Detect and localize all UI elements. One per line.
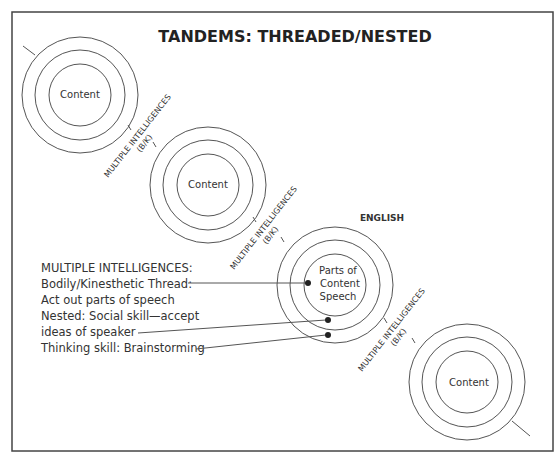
circle-label-line2: Content — [320, 278, 360, 289]
circle-group-3: Parts of Content Speech — [277, 227, 393, 343]
circle-label-line1: Parts of — [319, 265, 357, 276]
thread-label-line1: MULTIPLE INTELLIGENCES — [228, 185, 298, 272]
thread-tick — [384, 318, 387, 323]
legend-line: Nested: Social skill—accept — [41, 309, 200, 323]
circle-label: Content — [449, 377, 489, 388]
thread-label-1: MULTIPLE INTELLIGENCES (B/K) — [102, 93, 180, 186]
leader-line-thinking — [196, 335, 326, 349]
diagram-canvas: TANDEMS: THREADED/NESTED Content MULTIPL… — [0, 0, 560, 459]
dot-marker-thinking — [325, 332, 331, 338]
circle-label-line3: Speech — [320, 291, 357, 302]
thread-tick — [153, 142, 156, 147]
legend-line: ideas of speaker — [41, 325, 136, 339]
thread-label-line1: MULTIPLE INTELLIGENCES — [356, 287, 426, 374]
thread-start — [23, 46, 35, 55]
diagram-title: TANDEMS: THREADED/NESTED — [158, 27, 431, 46]
thread-tick — [281, 237, 284, 242]
dot-marker-thread — [305, 280, 311, 286]
legend-line: Bodily/Kinesthetic Thread: — [41, 277, 192, 291]
legend-line: MULTIPLE INTELLIGENCES: — [41, 261, 193, 275]
thread-tick — [412, 338, 415, 343]
subject-label: ENGLISH — [360, 213, 404, 223]
legend-line: Act out parts of speech — [41, 293, 175, 307]
circle-label: Content — [60, 89, 100, 100]
legend-line: Thinking skill: Brainstorming — [40, 341, 205, 355]
thread-label-line1: MULTIPLE INTELLIGENCES — [102, 93, 172, 180]
thread-end — [512, 421, 530, 436]
circle-group-4: Content — [409, 324, 525, 440]
circle-group-1: Content — [22, 37, 138, 153]
circle-group-2: Content — [150, 127, 266, 243]
dot-marker-social — [325, 317, 331, 323]
legend: MULTIPLE INTELLIGENCES: Bodily/Kinesthet… — [40, 261, 205, 355]
circle-label: Content — [188, 179, 228, 190]
